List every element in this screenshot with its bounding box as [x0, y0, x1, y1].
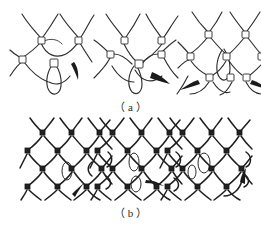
needle-pointer-icon: [71, 62, 78, 80]
stitch-node: [25, 184, 30, 189]
stitch-node: [125, 148, 130, 153]
stitch-node: [95, 184, 100, 189]
subfigure-a-1: [8, 10, 94, 96]
subfigure-b-3: [160, 116, 252, 200]
loop-formation-step-3-drawing: [176, 10, 261, 96]
stitch-node: [84, 184, 89, 189]
stitch-node: [139, 130, 144, 135]
subfigure-a-2: [92, 10, 178, 96]
panel-b-figures: [0, 116, 261, 200]
stitch-node: [25, 148, 30, 153]
loop-formation-step-2-drawing: [92, 10, 178, 96]
highlight-loop: [198, 153, 210, 173]
stitch-node: [121, 37, 128, 44]
stitch-node: [223, 53, 230, 60]
stitch-node: [40, 166, 45, 171]
stitch-node: [40, 130, 45, 135]
stitch-node: [180, 166, 185, 171]
stitch-node: [205, 31, 212, 38]
highlight-loop: [188, 165, 196, 179]
loop-formation-step-1-drawing: [8, 10, 94, 96]
stitch-node: [165, 184, 170, 189]
stitch-node: [158, 37, 165, 44]
stitch-node: [38, 37, 45, 44]
dense-net-step-3-drawing: [160, 116, 252, 200]
figure-root: （ a ）: [0, 0, 261, 225]
stitch-node: [180, 130, 185, 135]
stitch-node: [110, 166, 115, 171]
stitch-node: [154, 148, 159, 153]
stitch-node: [209, 130, 214, 135]
stitch-node: [224, 148, 229, 153]
stitch-node: [75, 37, 82, 44]
stitch-node: [110, 130, 115, 135]
panel-a-caption: （ a ）: [0, 98, 261, 114]
stitch-node: [237, 130, 242, 135]
stitch-node: [206, 74, 213, 81]
faint-clipped-header-text: [70, 0, 220, 9]
stitch-node: [158, 51, 165, 58]
stitch-node: [227, 74, 234, 81]
subfigure-a-3: [176, 10, 261, 96]
stitch-node: [125, 184, 130, 189]
stitch-node: [187, 53, 194, 60]
panel-b-caption: （ b ）: [0, 204, 261, 220]
stitch-node: [69, 130, 74, 135]
stitch-node: [55, 184, 60, 189]
stitch-node: [50, 59, 58, 67]
stitch-node: [258, 53, 261, 60]
panel-b: （ b ）: [0, 116, 261, 225]
stitch-node: [242, 31, 249, 38]
stitch-node: [243, 74, 250, 81]
stitch-node: [239, 166, 244, 171]
stitch-node: [195, 148, 200, 153]
stitch-node: [84, 148, 89, 153]
stitch-node: [135, 60, 143, 68]
stitch-node: [19, 56, 26, 63]
stitch-node: [69, 166, 74, 171]
stitch-node: [139, 166, 144, 171]
panel-a: （ a ）: [0, 10, 261, 115]
stitch-node: [224, 184, 229, 189]
needle-pointer-icon: [150, 72, 170, 84]
stitch-node: [55, 148, 60, 153]
stitch-node: [95, 148, 100, 153]
stitch-node: [107, 51, 114, 58]
stitch-node: [209, 166, 214, 171]
needle-pointer-icon: [250, 80, 261, 90]
needle-pointer-icon: [72, 183, 84, 197]
stitch-node: [195, 184, 200, 189]
highlight-loop: [129, 153, 139, 171]
stitch-node: [154, 184, 159, 189]
stitch-node: [165, 148, 170, 153]
panel-a-figures: [0, 10, 261, 96]
